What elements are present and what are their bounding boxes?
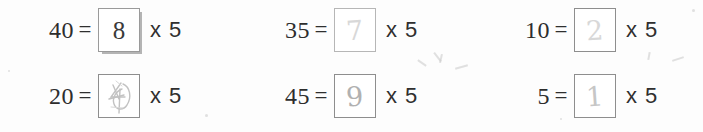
equals-sign: = bbox=[550, 17, 572, 43]
answer-box-1[interactable]: 8 bbox=[98, 8, 140, 52]
multiplier-text: x 5 bbox=[626, 17, 658, 43]
answer-value-1: 8 bbox=[113, 18, 126, 43]
multiplier-text: x 5 bbox=[150, 17, 182, 43]
equation-problem-4: 20 = bbox=[16, 68, 216, 124]
equation-problem-2: 35 = 7 x 5 bbox=[252, 2, 452, 58]
dividend-value: 20 bbox=[16, 83, 74, 110]
equals-sign: = bbox=[74, 17, 96, 43]
worksheet-page: 40 = 8 x 5 35 = 7 x 5 10 = 2 x 5 bbox=[0, 0, 703, 132]
equals-sign: = bbox=[310, 83, 332, 109]
equation-problem-3: 10 = 2 x 5 bbox=[492, 2, 692, 58]
answer-value-2: 7 bbox=[345, 16, 364, 44]
dividend-value: 10 bbox=[492, 17, 550, 44]
answer-value-5: 9 bbox=[345, 82, 364, 110]
answer-box-6[interactable]: 1 bbox=[574, 74, 616, 118]
dividend-value: 45 bbox=[252, 83, 310, 110]
dividend-value: 5 bbox=[492, 83, 550, 110]
erased-answer-scribble bbox=[99, 75, 139, 117]
multiplier-text: x 5 bbox=[386, 83, 418, 109]
equals-sign: = bbox=[550, 83, 572, 109]
equals-sign: = bbox=[310, 17, 332, 43]
multiplier-text: x 5 bbox=[626, 83, 658, 109]
equation-problem-6: 5 = 1 x 5 bbox=[492, 68, 692, 124]
dividend-value: 40 bbox=[16, 17, 74, 44]
multiplier-text: x 5 bbox=[386, 17, 418, 43]
equation-problem-1: 40 = 8 x 5 bbox=[16, 2, 216, 58]
answer-box-2[interactable]: 7 bbox=[334, 8, 376, 52]
stray-pencil-mark bbox=[417, 59, 426, 66]
dividend-value: 35 bbox=[252, 17, 310, 44]
equation-row: 20 = bbox=[0, 68, 703, 124]
equals-sign: = bbox=[74, 83, 96, 109]
answer-value-6: 1 bbox=[585, 82, 604, 110]
equation-row: 40 = 8 x 5 35 = 7 x 5 10 = 2 x 5 bbox=[0, 2, 703, 58]
answer-value-3: 2 bbox=[585, 16, 604, 44]
equation-problem-5: 45 = 9 x 5 bbox=[252, 68, 452, 124]
answer-box-4[interactable]: 4 bbox=[98, 74, 140, 118]
multiplier-text: x 5 bbox=[150, 83, 182, 109]
answer-box-5[interactable]: 9 bbox=[334, 74, 376, 118]
answer-box-3[interactable]: 2 bbox=[574, 8, 616, 52]
